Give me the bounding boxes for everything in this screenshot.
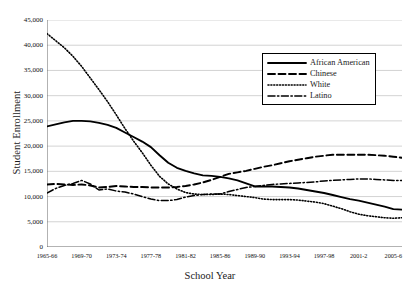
y-tick-label: 30,000 <box>24 92 47 100</box>
x-tick-label: 1985-86 <box>210 252 231 259</box>
legend-item-african-american: African American <box>267 57 370 68</box>
y-tick-label: 0 <box>40 243 48 251</box>
y-tick-label: 40,000 <box>24 41 47 49</box>
x-tick-label: 2005-6 <box>385 252 403 259</box>
legend-label: White <box>310 80 330 89</box>
y-tick-label: 35,000 <box>24 66 47 74</box>
legend-line-swatch <box>267 69 307 79</box>
legend-line-swatch <box>267 80 307 90</box>
x-tick-label: 1993-94 <box>279 252 300 259</box>
y-tick-label: 25,000 <box>24 117 47 125</box>
x-tick-label: 2001-2 <box>350 252 368 259</box>
x-tick-label: 1965-66 <box>37 252 58 259</box>
y-tick-label: 20,000 <box>24 142 47 150</box>
x-tick-label: 1973-74 <box>106 252 127 259</box>
y-tick-label: 45,000 <box>24 16 47 24</box>
x-tick-label: 1997-98 <box>314 252 335 259</box>
legend-label: African American <box>310 58 370 67</box>
x-tick-label: 1989-90 <box>244 252 265 259</box>
legend-label: Latino <box>310 91 332 100</box>
chart-legend: African AmericanChineseWhiteLatino <box>262 53 376 105</box>
legend-label: Chinese <box>310 69 337 78</box>
x-axis-title: School Year <box>0 270 420 281</box>
legend-line-swatch <box>267 91 307 101</box>
x-tick-label: 1981-82 <box>175 252 196 259</box>
legend-item-latino: Latino <box>267 90 370 101</box>
legend-item-chinese: Chinese <box>267 68 370 79</box>
y-tick-label: 5,000 <box>27 218 47 226</box>
legend-item-white: White <box>267 79 370 90</box>
y-tick-label: 10,000 <box>24 193 47 201</box>
x-tick-label: 1977-78 <box>141 252 162 259</box>
enrollment-line-chart: Student Enrollment 05,00010,00015,00020,… <box>0 0 420 293</box>
legend-line-swatch <box>267 58 307 68</box>
y-axis-title: Student Enrollment <box>8 52 26 212</box>
y-tick-label: 15,000 <box>24 167 47 175</box>
series-line-latino <box>47 179 402 201</box>
x-tick-label: 1969-70 <box>71 252 92 259</box>
